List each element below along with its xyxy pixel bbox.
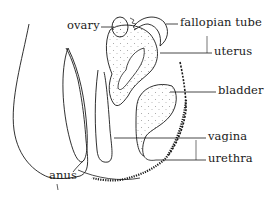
ovary-shape bbox=[112, 17, 128, 37]
rectum-outline bbox=[63, 48, 87, 162]
label-urethra: urethra bbox=[208, 153, 253, 165]
anus-tick bbox=[57, 184, 58, 190]
pelvic-anatomy-diagram bbox=[0, 0, 268, 199]
label-ovary: ovary bbox=[67, 20, 100, 32]
urethra-channel bbox=[144, 156, 156, 160]
bladder-shape bbox=[136, 84, 176, 156]
perineum-line bbox=[78, 170, 140, 180]
body-outline bbox=[13, 24, 87, 179]
label-fallopian-tube: fallopian tube bbox=[180, 17, 262, 29]
label-vagina: vagina bbox=[208, 131, 247, 143]
label-bladder: bladder bbox=[218, 85, 264, 97]
label-anus: anus bbox=[49, 170, 77, 182]
label-uterus: uterus bbox=[214, 46, 252, 58]
